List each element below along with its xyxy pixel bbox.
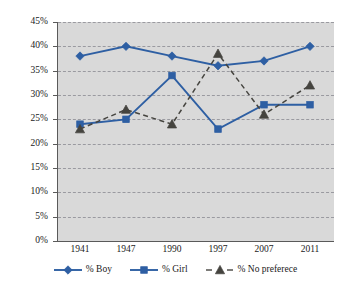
y-tick-mark (53, 241, 57, 242)
data-point-marker (261, 101, 268, 108)
legend-label: % Girl (162, 265, 188, 275)
y-tick-label: 5% (35, 212, 48, 222)
series-line (80, 54, 310, 129)
diamond-icon (53, 264, 83, 276)
series-line (80, 76, 310, 130)
x-tick-label: 1941 (71, 245, 90, 255)
data-point-marker (215, 126, 222, 133)
legend-item--girl[interactable]: % Girl (129, 264, 188, 276)
square-icon (129, 264, 159, 276)
legend-item--boy[interactable]: % Boy (53, 264, 112, 276)
data-point-marker (76, 52, 84, 60)
y-tick-label: 15% (31, 163, 48, 173)
data-point-marker (214, 62, 222, 70)
data-point-marker (169, 72, 176, 79)
y-tick-label: 0% (35, 236, 48, 246)
data-point-marker (307, 101, 314, 108)
legend-label: % No preferece (238, 265, 298, 275)
y-tick-label: 40% (31, 41, 48, 51)
y-tick-label: 35% (31, 66, 48, 76)
y-axis: 0%5%10%15%20%25%30%35%40%45% (0, 0, 57, 250)
data-point-marker (141, 267, 148, 274)
data-point-marker (121, 105, 130, 113)
data-point-marker (123, 116, 130, 123)
series--boy (76, 42, 314, 70)
data-point-marker (305, 81, 314, 89)
data-point-marker (306, 42, 314, 50)
line-chart: 0%5%10%15%20%25%30%35%40%45% 19411947199… (0, 0, 350, 293)
data-point-marker (215, 265, 224, 273)
x-tick-label: 2011 (301, 245, 320, 255)
x-tick-label: 1997 (209, 245, 228, 255)
y-tick-label: 45% (31, 17, 48, 27)
legend-label: % Boy (86, 265, 112, 275)
data-point-marker (260, 57, 268, 65)
x-tick-label: 1947 (117, 245, 136, 255)
series--girl (77, 72, 314, 132)
triangle-icon (205, 264, 235, 276)
legend-item--no-preferece[interactable]: % No preferece (205, 264, 298, 276)
y-tick-label: 20% (31, 139, 48, 149)
data-point-marker (168, 52, 176, 60)
y-tick-label: 10% (31, 187, 48, 197)
x-axis: 194119471990199720072011 (57, 245, 333, 263)
series-layer (57, 22, 333, 241)
y-tick-label: 30% (31, 90, 48, 100)
series-line (80, 46, 310, 65)
data-point-marker (64, 266, 72, 274)
data-point-marker (122, 42, 130, 50)
data-point-marker (259, 110, 268, 118)
data-point-marker (213, 49, 222, 57)
chart-legend: % Boy% Girl% No preferece (0, 264, 350, 276)
x-tick-label: 1990 (163, 245, 182, 255)
x-tick-label: 2007 (255, 245, 274, 255)
y-tick-label: 25% (31, 114, 48, 124)
